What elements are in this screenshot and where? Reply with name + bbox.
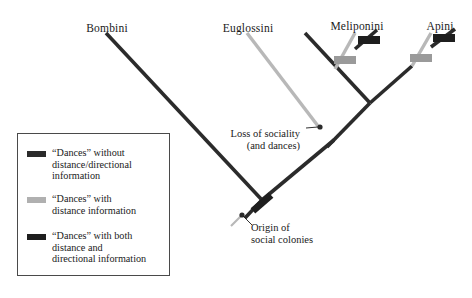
annotation-line: Origin of — [251, 222, 313, 234]
legend-line: distance/directional — [52, 159, 132, 171]
apini-backbone — [370, 66, 412, 103]
legend-line: directional information — [52, 253, 146, 265]
annotation-origin-of-social-colonies: Origin of social colonies — [251, 222, 313, 246]
social-backbone — [327, 103, 370, 147]
taxon-label-meliponini: Meliponini — [330, 20, 383, 32]
legend-swatch-light-gray — [27, 197, 46, 203]
legend-swatch-black — [27, 234, 46, 240]
annotation-line: Loss of sociality — [215, 128, 300, 140]
taxon-label-apini: Apini — [426, 20, 453, 32]
meliponini-gray-bar — [334, 56, 356, 64]
legend-line: “Dances” with — [52, 193, 136, 205]
marker-layer — [251, 34, 455, 214]
origin-tail — [231, 216, 241, 226]
phylogenetic-tree-figure: Bombini Euglossini Meliponini Apini Loss… — [0, 0, 472, 298]
legend-line: information — [52, 170, 132, 182]
legend-item-text: “Dances” with distance information — [52, 193, 136, 216]
legend-line: distance and — [52, 242, 146, 254]
legend-box: “Dances” without distance/directional in… — [17, 133, 170, 276]
legend-item-dances-with-distance: “Dances” with distance information — [27, 193, 136, 216]
legend-swatch-dark — [27, 151, 46, 157]
apini-black-bar — [433, 34, 455, 42]
annotation-line: (and dances) — [215, 140, 300, 152]
leader-line-loss-of-sociality — [306, 127, 318, 128]
origin-bar — [251, 192, 274, 213]
legend-line: “Dances” with both — [52, 230, 146, 242]
loss-node — [317, 124, 322, 129]
legend-item-dances-without: “Dances” without distance/directional in… — [27, 147, 132, 182]
taxon-label-bombini: Bombini — [86, 22, 128, 34]
meliponini-black-bar — [358, 36, 380, 44]
legend-item-text: “Dances” with both distance and directio… — [52, 230, 146, 265]
apini-gray-bar — [410, 54, 432, 62]
legend-line: “Dances” without — [52, 147, 132, 159]
annotation-line: social colonies — [251, 234, 313, 246]
legend-item-dances-with-both: “Dances” with both distance and directio… — [27, 230, 146, 265]
euglossini-branch — [247, 33, 318, 126]
legend-line: distance information — [52, 205, 136, 217]
annotation-loss-of-sociality: Loss of sociality (and dances) — [215, 128, 300, 152]
taxon-label-euglossini: Euglossini — [223, 22, 274, 34]
legend-item-text: “Dances” without distance/directional in… — [52, 147, 132, 182]
